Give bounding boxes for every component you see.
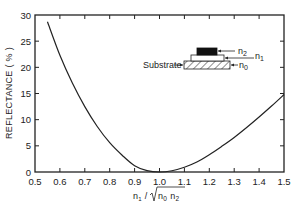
y-tick-label: 20: [20, 62, 31, 73]
y-tick-label: 5: [26, 140, 31, 151]
y-tick-label: 15: [20, 88, 31, 99]
film-n2-layer: [197, 48, 217, 55]
svg-text:n2: n2: [238, 46, 247, 57]
reflectance-chart: 051015202530 0.50.60.70.80.91.01.11.21.3…: [0, 0, 294, 207]
svg-text:n1: n1: [255, 51, 264, 62]
film-n1-layer: [191, 55, 224, 61]
sqrt-symbol: [150, 187, 185, 201]
x-axis-title: n1 / n0n2: [133, 187, 185, 202]
x-tick-label: 1.0: [153, 176, 166, 187]
x-tick-label: 1.4: [252, 176, 265, 187]
x-axis-ticks: 0.50.60.70.80.91.01.11.21.31.41.5: [28, 15, 290, 187]
substrate-layer: [184, 61, 230, 69]
x-tick-label: 1.5: [277, 176, 290, 187]
layer-stack-inset: Substrate n2 n1 n0: [143, 46, 264, 71]
y-axis-title: REFLECTANCE ( % ): [4, 47, 14, 139]
x-tick-label: 1.2: [203, 176, 216, 187]
x-tick-label: 0.6: [53, 176, 66, 187]
y-axis-ticks: 051015202530: [20, 10, 284, 178]
reflectance-curve: [47, 22, 284, 172]
svg-text:n1 /: n1 /: [133, 191, 148, 202]
y-tick-label: 10: [20, 114, 31, 125]
x-tick-label: 1.1: [178, 176, 191, 187]
x-tick-label: 1.3: [228, 176, 241, 187]
y-tick-label: 25: [20, 36, 31, 47]
svg-text:n0: n0: [239, 60, 248, 71]
plot-frame: [35, 15, 284, 172]
x-tick-label: 0.5: [28, 176, 41, 187]
y-tick-label: 30: [20, 10, 31, 21]
x-tick-label: 0.9: [128, 176, 141, 187]
svg-text:n0n2: n0n2: [158, 191, 180, 202]
x-tick-label: 0.7: [78, 176, 91, 187]
x-tick-label: 0.8: [103, 176, 116, 187]
